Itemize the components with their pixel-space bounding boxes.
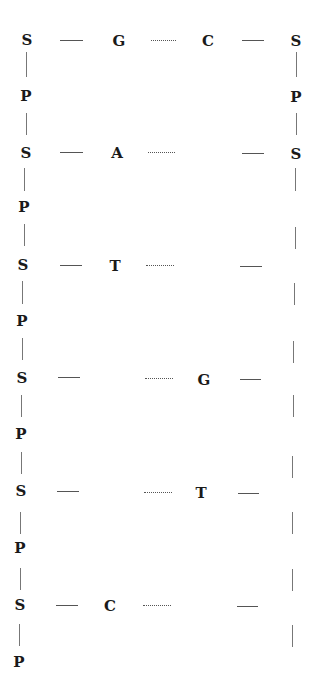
covalent-bond: [237, 606, 258, 607]
left-base: T: [109, 259, 120, 274]
backbone-bond: [292, 512, 293, 534]
backbone-bond: [292, 625, 293, 647]
backbone-bond: [293, 341, 294, 363]
left-phosphate: P: [16, 314, 27, 329]
backbone-bond: [292, 456, 293, 478]
right-phosphate: P: [290, 90, 301, 105]
hydrogen-bond: [144, 492, 172, 493]
backbone-bond: [294, 283, 295, 305]
right-sugar: S: [291, 147, 302, 162]
left-sugar: S: [17, 371, 28, 386]
left-sugar: S: [21, 146, 32, 161]
right-sugar: S: [291, 34, 302, 49]
left-phosphate: P: [15, 427, 26, 442]
left-base: C: [104, 599, 116, 614]
covalent-bond: [242, 153, 264, 154]
backbone-bond: [24, 224, 25, 246]
backbone-bond: [19, 624, 20, 646]
backbone-bond: [296, 52, 297, 77]
left-phosphate: P: [13, 655, 24, 670]
left-base: A: [111, 146, 123, 161]
backbone-bond: [22, 338, 23, 360]
covalent-bond: [56, 605, 78, 606]
right-base: C: [202, 34, 214, 49]
left-base: G: [113, 34, 126, 49]
left-phosphate: P: [14, 541, 25, 556]
hydrogen-bond: [143, 605, 171, 606]
right-base: G: [198, 373, 211, 388]
backbone-bond: [24, 168, 25, 191]
left-phosphate: P: [18, 200, 29, 215]
backbone-bond: [292, 569, 293, 591]
covalent-bond: [60, 152, 83, 153]
left-sugar: S: [15, 598, 26, 613]
left-sugar: S: [18, 258, 29, 273]
backbone-bond: [26, 52, 27, 77]
covalent-bond: [60, 265, 82, 266]
right-base: T: [195, 486, 206, 501]
backbone-bond: [26, 113, 27, 135]
covalent-bond: [60, 40, 83, 41]
backbone-bond: [295, 227, 296, 249]
backbone-bond: [20, 568, 21, 590]
backbone-bond: [293, 395, 294, 417]
backbone-bond: [22, 281, 23, 304]
covalent-bond: [58, 377, 80, 378]
hydrogen-bond: [145, 378, 173, 379]
backbone-bond: [295, 168, 296, 191]
covalent-bond: [240, 379, 261, 380]
backbone-bond: [296, 113, 297, 135]
hydrogen-bond: [151, 40, 176, 41]
backbone-bond: [21, 452, 22, 474]
backbone-bond: [21, 395, 22, 417]
hydrogen-bond: [148, 152, 175, 153]
left-sugar: S: [16, 484, 27, 499]
left-sugar: S: [22, 33, 33, 48]
covalent-bond: [242, 40, 264, 41]
covalent-bond: [240, 266, 262, 267]
covalent-bond: [238, 493, 259, 494]
backbone-bond: [20, 512, 21, 534]
covalent-bond: [57, 491, 79, 492]
left-phosphate: P: [20, 89, 31, 104]
hydrogen-bond: [146, 265, 174, 266]
